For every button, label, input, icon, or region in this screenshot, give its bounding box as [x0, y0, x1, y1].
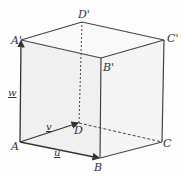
front-face: [20, 40, 101, 158]
vertex-label-D: D: [73, 124, 83, 137]
vertex-label-C: C: [163, 137, 172, 150]
vertex-label-C1: C': [167, 32, 178, 45]
cube-svg: A B C D A' B' C' D' u v w: [0, 0, 185, 178]
vertex-label-B1: B': [102, 61, 114, 74]
cube-diagram: A B C D A' B' C' D' u v w: [0, 0, 185, 178]
vector-label-w: w: [8, 87, 17, 98]
vector-label-v: v: [46, 121, 52, 132]
vertex-label-A: A: [10, 140, 19, 153]
vertex-label-A1: A': [10, 34, 22, 47]
vector-label-u: u: [54, 147, 60, 158]
vertex-label-D1: D': [77, 8, 90, 21]
vertex-label-B: B: [93, 161, 102, 174]
